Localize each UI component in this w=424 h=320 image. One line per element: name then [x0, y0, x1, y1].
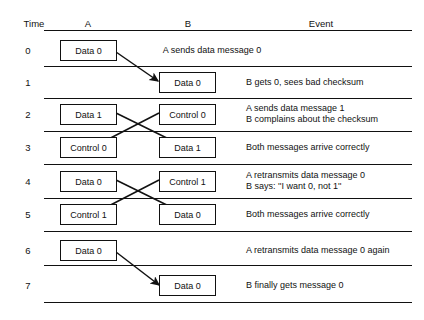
rule-3-4 [44, 164, 412, 165]
time-label-1: 1 [18, 77, 38, 88]
column-header-b: B [160, 18, 216, 29]
message-box-b-t3[interactable]: Data 1 [159, 137, 216, 158]
rule-bottom [44, 302, 412, 303]
message-box-a-t2[interactable]: Data 1 [60, 104, 117, 125]
rule-2-3 [44, 131, 412, 132]
rule-6-7 [44, 265, 412, 266]
message-box-b-t7[interactable]: Data 0 [159, 275, 216, 296]
time-label-2: 2 [18, 109, 38, 120]
time-label-6: 6 [18, 245, 38, 256]
event-text-t2-line2: B complains about the checksum [246, 114, 378, 126]
rule-0-1 [44, 66, 412, 67]
event-text-t4-line2: B says: ''I want 0, not 1'' [246, 181, 341, 193]
event-text-t2-line1: A sends data message 1 [246, 103, 345, 115]
rule-4-5 [44, 198, 412, 199]
rule-5-6 [44, 231, 412, 232]
rule-header [44, 30, 412, 31]
message-box-b-t4[interactable]: Control 1 [159, 171, 216, 192]
event-text-t6: A retransmits data message 0 again [246, 245, 390, 257]
event-text-t1: B gets 0, sees bad checksum [246, 77, 364, 89]
event-text-t3: Both messages arrive correctly [246, 142, 370, 154]
column-header-time: Time [18, 18, 50, 29]
message-box-b-t1[interactable]: Data 0 [159, 72, 216, 93]
time-label-5: 5 [18, 209, 38, 220]
rule-1-2 [44, 98, 412, 99]
message-box-a-t0[interactable]: Data 0 [60, 40, 117, 61]
message-box-a-t3[interactable]: Control 0 [60, 137, 117, 158]
event-text-t4-line1: A retransmits data message 0 [246, 170, 365, 182]
message-box-a-t4[interactable]: Data 0 [60, 171, 117, 192]
message-box-b-t5[interactable]: Data 0 [159, 204, 216, 225]
message-box-a-t5[interactable]: Control 1 [60, 204, 117, 225]
time-label-4: 4 [18, 176, 38, 187]
arrow-t6-a-to-t7-b [116, 252, 159, 285]
diagram-canvas: Time A B Event 0 D [0, 0, 424, 320]
time-label-7: 7 [18, 280, 38, 291]
event-text-t7: B finally gets message 0 [246, 280, 344, 292]
column-header-event: Event [246, 18, 396, 29]
time-label-3: 3 [18, 142, 38, 153]
column-header-a: A [60, 18, 116, 29]
message-box-b-t2[interactable]: Control 0 [159, 104, 216, 125]
event-text-t5: Both messages arrive correctly [246, 209, 370, 221]
message-box-a-t6[interactable]: Data 0 [60, 240, 117, 261]
